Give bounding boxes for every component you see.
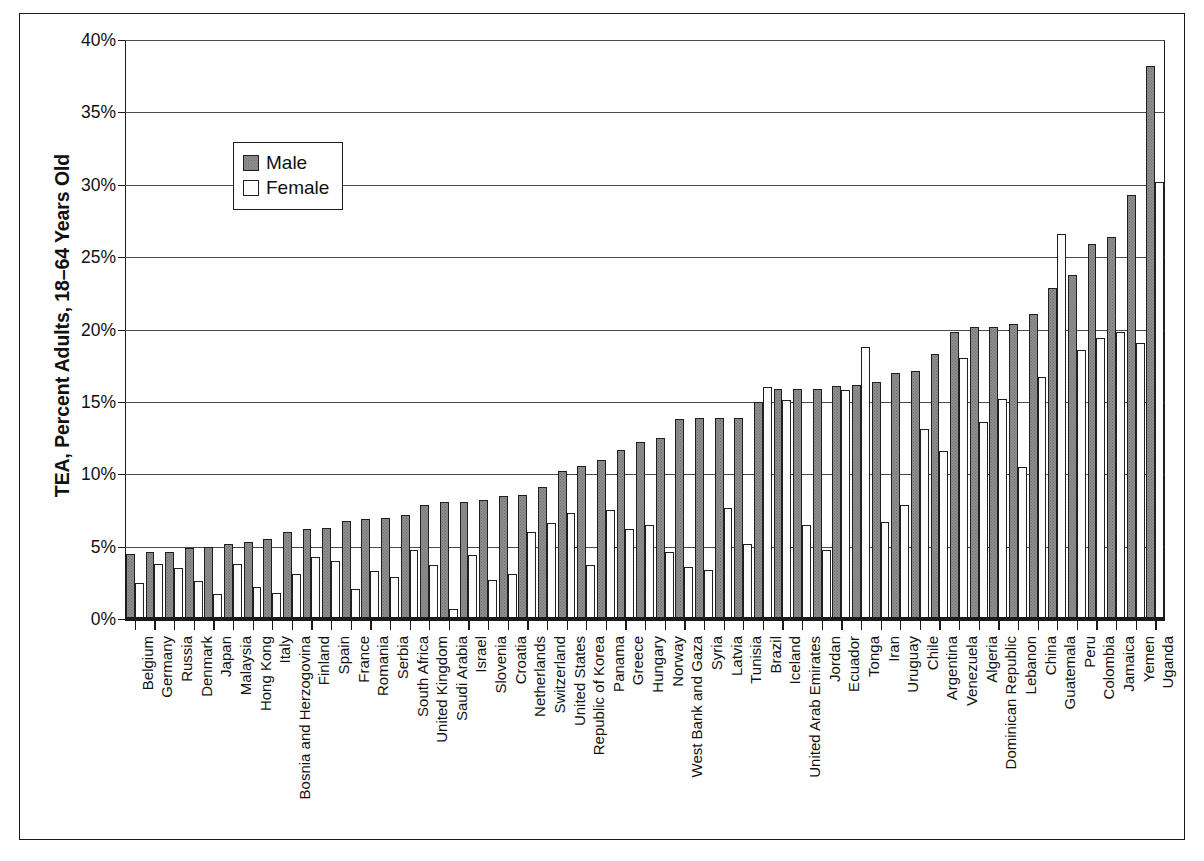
bar-group (518, 40, 538, 619)
bar-male (617, 450, 626, 619)
x-axis-tick-mark (518, 619, 538, 631)
bar-group (930, 40, 950, 619)
y-axis-tick-label: 5% (91, 536, 116, 557)
bar-female (567, 513, 576, 619)
bar-female (272, 593, 281, 619)
bar-group (243, 40, 263, 619)
bar-group (655, 40, 675, 619)
x-axis-tick-mark (223, 619, 243, 631)
bar-female (841, 390, 850, 619)
bar-group (262, 40, 282, 619)
bar-group (753, 40, 773, 619)
bar-female (213, 594, 222, 619)
bar-male (165, 552, 174, 619)
bar-male (577, 466, 586, 619)
x-axis-tick-mark (733, 619, 753, 631)
x-axis-label-cell: Slovenia (478, 634, 498, 834)
bar-female (684, 567, 693, 619)
x-axis-tick-mark (635, 619, 655, 631)
x-axis-tick-mark (341, 619, 361, 631)
y-axis-tick-mark (118, 112, 125, 113)
bar-female (370, 571, 379, 619)
x-axis-tick-mark (537, 619, 557, 631)
x-axis-label-cell: Greece (616, 634, 636, 834)
x-axis-tick-label: Uganda (1160, 636, 1175, 689)
y-axis-tick-mark (118, 547, 125, 548)
bar-female (822, 550, 831, 619)
bar-group (125, 40, 145, 619)
x-axis-label-cell: Hong Kong (243, 634, 263, 834)
x-axis-tick-mark (1087, 619, 1107, 631)
y-axis-title: TEA, Percent Adults, 18–64 Years Old (51, 26, 74, 626)
bar-female (410, 550, 419, 619)
bar-group (282, 40, 302, 619)
bar-male (852, 385, 861, 619)
y-axis-tick-label: 20% (81, 319, 116, 340)
bar-female (625, 529, 634, 619)
bar-male (656, 438, 665, 619)
x-axis-tick-mark (204, 619, 224, 631)
x-axis-label-cell: China (1028, 634, 1048, 834)
bar-male (224, 544, 233, 619)
chart-legend: Male Female (233, 142, 343, 210)
x-axis-label-cell: Iran (871, 634, 891, 834)
bar-group (400, 40, 420, 619)
bar-group (1067, 40, 1087, 619)
x-axis-label-cell: United States (557, 634, 577, 834)
x-axis-tick-mark (1106, 619, 1126, 631)
x-axis-tick-mark (832, 619, 852, 631)
x-axis-label-cell: Peru (1067, 634, 1087, 834)
bar-group (361, 40, 381, 619)
x-axis-label-cell: Serbia (380, 634, 400, 834)
x-axis-tick-mark (498, 619, 518, 631)
bar-female (508, 574, 517, 619)
legend-label-female: Female (266, 177, 329, 199)
x-axis-label-cell: Lebanon (1008, 634, 1028, 834)
bar-group (910, 40, 930, 619)
bar-female (979, 422, 988, 619)
bar-group (1146, 40, 1166, 619)
bar-female (586, 565, 595, 619)
x-axis-label-cell: Republic of Korea (576, 634, 596, 834)
bar-female (233, 564, 242, 619)
bar-group (321, 40, 341, 619)
bar-male (675, 419, 684, 619)
y-axis-tick-label: 15% (81, 391, 116, 412)
x-axis-label-cell: Finland (302, 634, 322, 834)
bar-female (900, 505, 909, 619)
bar-male (911, 371, 920, 619)
bar-male (891, 373, 900, 619)
x-axis-label-cell: Switzerland (537, 634, 557, 834)
bar-group (871, 40, 891, 619)
x-axis-label-cell: Dominican Republic (989, 634, 1009, 834)
x-axis-tick-mark (675, 619, 695, 631)
bar-male (832, 386, 841, 619)
x-axis-label-cell: Uganda (1146, 634, 1166, 834)
bar-female (606, 510, 615, 619)
y-axis-tick-label: 35% (81, 102, 116, 123)
bar-group (792, 40, 812, 619)
bar-group (498, 40, 518, 619)
x-axis-label-cell: Israel (459, 634, 479, 834)
bar-male (479, 500, 488, 619)
bar-male (342, 521, 351, 619)
bar-male (754, 402, 763, 619)
x-axis-tick-mark (753, 619, 773, 631)
bar-male (538, 487, 547, 619)
bar-male (1068, 275, 1077, 620)
x-axis-tick-mark (1047, 619, 1067, 631)
x-axis-tick-mark (792, 619, 812, 631)
x-axis-label-cell: Chile (910, 634, 930, 834)
y-axis-tick-mark (118, 402, 125, 403)
x-axis-label-cell: Croatia (498, 634, 518, 834)
bar-male (1029, 314, 1038, 619)
bar-male (263, 539, 272, 619)
bar-male (970, 327, 979, 619)
x-axis-label-cell: West Bank and Gaza (675, 634, 695, 834)
bar-female (429, 565, 438, 619)
x-axis-label-cell: Spain (321, 634, 341, 834)
x-axis-label-cell: South Africa (400, 634, 420, 834)
x-axis-ticks (125, 619, 1165, 631)
y-axis-tick-label: 25% (81, 247, 116, 268)
bar-male (695, 418, 704, 619)
